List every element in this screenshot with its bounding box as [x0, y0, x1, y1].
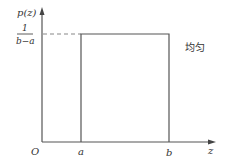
x-tick-a: a [78, 146, 84, 157]
y-axis-label: p(z) [17, 7, 37, 18]
fraction-numerator: 1 [22, 23, 28, 33]
x-axis-label: z [207, 145, 214, 156]
fraction-denominator: b−a [16, 36, 35, 46]
curve-label: 均匀 [185, 42, 205, 53]
x-tick-b: b [166, 147, 172, 158]
uniform-density-curve [81, 34, 169, 142]
uniform-density-diagram: p(z) 1 b−a 均匀 O a b z [0, 0, 226, 164]
y-axis-arrow-icon [40, 7, 45, 15]
origin-label: O [31, 146, 39, 157]
x-axis-arrow-icon [208, 140, 216, 145]
